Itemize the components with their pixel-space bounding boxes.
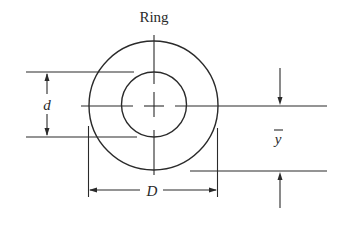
ring-diagram: Ring d <box>0 0 345 225</box>
arrow-up-icon <box>45 73 50 81</box>
arrow-up-icon <box>278 172 283 180</box>
centroid-dimension: y <box>190 68 327 208</box>
arrow-down-icon <box>278 97 283 105</box>
outer-diameter-label: D <box>146 183 158 199</box>
centroid-label: y <box>273 131 282 147</box>
diagram-title: Ring <box>139 9 169 25</box>
arrow-right-icon <box>209 188 217 193</box>
inner-diameter-label: d <box>43 97 51 113</box>
arrow-down-icon <box>45 128 50 136</box>
inner-diameter-dimension: d <box>26 72 137 137</box>
arrow-left-icon <box>89 188 97 193</box>
